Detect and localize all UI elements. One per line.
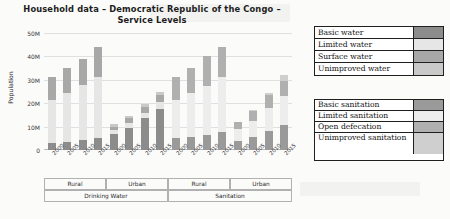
bar-segment: [265, 95, 273, 108]
chart-title: Household data – Democratic Republic of …: [18, 4, 286, 25]
y-tick-label: 20M: [27, 100, 40, 107]
group-band-service: Drinking Water: [44, 190, 168, 202]
x-axis-tick-labels: 2000200520102015200020052010201520002005…: [44, 152, 292, 178]
stacked-bar: [218, 47, 226, 150]
y-tick-label: 50M: [27, 30, 40, 37]
stacked-bar: [249, 110, 257, 150]
legend-label: Surface water: [315, 51, 414, 62]
bar-segment: [94, 77, 102, 138]
stacked-bar: [187, 68, 195, 150]
bar-segment: [141, 118, 149, 150]
group-band-area: Rural: [44, 178, 106, 190]
legend-swatch: [414, 63, 443, 75]
water-legend: Basic waterLimited waterSurface waterUni…: [314, 26, 444, 76]
legend-label: Unimproved sanitation: [315, 133, 414, 154]
bar-segment: [187, 93, 195, 136]
legend-row: Open defecation: [315, 122, 443, 133]
legend-row: Limited water: [315, 39, 443, 51]
stacked-bar: [48, 77, 56, 150]
y-tick-label: 0: [36, 147, 40, 154]
bar-segment: [203, 86, 211, 135]
legend-row: Limited sanitation: [315, 111, 443, 122]
y-tick-label: 10M: [27, 123, 40, 130]
bar-segment: [265, 108, 273, 131]
legend-label: Basic sanitation: [315, 100, 414, 110]
bar-segment: [48, 77, 56, 99]
background-artifact-2: [300, 182, 420, 196]
bar-segment: [280, 96, 288, 125]
plot-area: 010M20M30M40M50M: [44, 33, 292, 150]
chart-panel: Household data – Democratic Republic of …: [0, 0, 296, 219]
bar-series-container: [44, 33, 292, 150]
screenshot-root: Household data – Democratic Republic of …: [0, 0, 450, 219]
legend-swatch: [414, 39, 443, 50]
stacked-bar: [265, 93, 273, 150]
stacked-bar: [156, 92, 164, 151]
legend-swatch: [414, 122, 443, 132]
bar-segment: [234, 122, 242, 129]
group-band-area: Urban: [106, 178, 168, 190]
legend-label: Unimproved water: [315, 63, 414, 75]
bar-segment: [63, 93, 71, 142]
y-tick-label: 40M: [27, 53, 40, 60]
stacked-bar: [79, 59, 87, 150]
y-tick-label: 30M: [27, 76, 40, 83]
bar-segment: [218, 47, 226, 77]
bar-segment: [218, 77, 226, 132]
bar-segment: [156, 102, 164, 109]
group-band-area: Rural: [168, 178, 230, 190]
stacked-bar: [203, 56, 211, 150]
legend-swatch: [414, 133, 443, 154]
bar-segment: [249, 121, 257, 137]
bar-segment: [234, 129, 242, 141]
bar-segment: [156, 109, 164, 150]
bar-segment: [48, 100, 56, 143]
legend-label: Open defecation: [315, 122, 414, 132]
bar-segment: [172, 77, 180, 99]
legend-row: Unimproved sanitation: [315, 133, 443, 154]
bar-segment: [203, 56, 211, 85]
bar-segment: [94, 47, 102, 77]
legend-row: Basic water: [315, 27, 443, 39]
legend-label: Limited sanitation: [315, 111, 414, 121]
legend-swatch: [414, 27, 443, 38]
stacked-bar: [280, 75, 288, 150]
group-band-area: Urban: [230, 178, 292, 190]
bar-segment: [63, 68, 71, 93]
legend-row: Unimproved water: [315, 63, 443, 75]
legend-swatch: [414, 100, 443, 110]
bar-segment: [79, 59, 87, 85]
legend-swatch: [414, 111, 443, 121]
group-band-service: Sanitation: [168, 190, 292, 202]
bar-segment: [156, 95, 164, 102]
legend-row: Surface water: [315, 51, 443, 63]
bar-segment: [79, 85, 87, 140]
legend-row: Basic sanitation: [315, 100, 443, 111]
bar-segment: [280, 81, 288, 96]
legend-label: Basic water: [315, 27, 414, 38]
legend-label: Limited water: [315, 39, 414, 50]
stacked-bar: [172, 77, 180, 150]
stacked-bar: [94, 47, 102, 150]
stacked-bar: [141, 104, 149, 150]
bar-segment: [172, 100, 180, 139]
sanitation-legend: Basic sanitationLimited sanitationOpen d…: [314, 99, 444, 161]
stacked-bar: [63, 68, 71, 150]
bar-segment: [249, 111, 257, 120]
legend-swatch: [414, 51, 443, 62]
bar-segment: [187, 68, 195, 94]
y-axis-label: Population: [7, 58, 14, 118]
